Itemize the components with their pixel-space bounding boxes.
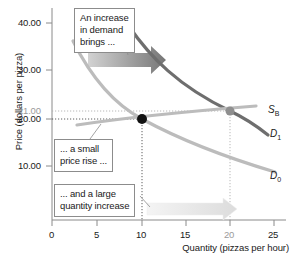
- chart-figure: 40.00 30.00 21.00 20.00 10.00 0 5 10 15 …: [0, 0, 293, 255]
- curve-label-supply: SB: [268, 104, 279, 117]
- curve-label-supply-sub: B: [275, 110, 280, 117]
- callout-quantity-increase: ... and a large quantity increase: [54, 184, 135, 217]
- curve-label-supply-letter: S: [268, 104, 275, 115]
- curve-label-demand-new-sub: 1: [277, 134, 281, 141]
- demand-curve-d1: [128, 25, 268, 135]
- curve-label-demand-original: D0: [270, 170, 281, 183]
- quantity-increase-arrow: [147, 198, 237, 220]
- leader-price: [90, 124, 101, 139]
- new-equilibrium-point: [226, 107, 235, 116]
- xtick-label-0: 0: [49, 229, 54, 240]
- chart-canvas: [0, 0, 293, 255]
- xtick-label-25: 25: [268, 229, 278, 240]
- y-axis-title: Price (dollars per pizza): [13, 42, 24, 162]
- curve-label-demand-original-sub: 0: [277, 176, 281, 183]
- curve-label-demand-new: D1: [270, 128, 281, 141]
- original-equilibrium-point: [137, 114, 147, 124]
- leader-qty: [140, 196, 150, 207]
- xtick-label-10: 10: [136, 229, 146, 240]
- xtick-label-5: 5: [94, 229, 99, 240]
- y-axis-ticks: [46, 23, 52, 166]
- x-axis-ticks: [52, 220, 274, 226]
- x-axis-title: Quantity (pizzas per hour): [182, 242, 289, 253]
- xtick-label-20: 20: [224, 229, 234, 240]
- xtick-label-15: 15: [180, 229, 190, 240]
- callout-demand-increase: An increase in demand brings ...: [74, 8, 135, 53]
- callout-price-rise: ... a small price rise ...: [54, 139, 113, 172]
- ytick-label-10: 10.00: [18, 160, 41, 171]
- ytick-label-40: 40.00: [18, 17, 41, 28]
